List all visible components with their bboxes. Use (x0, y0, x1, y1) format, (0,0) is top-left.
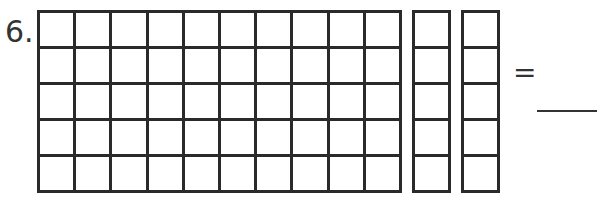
strip-1 (412, 10, 451, 193)
grid-cell (364, 156, 400, 192)
grid-cell (75, 48, 111, 84)
grid-cell (463, 120, 499, 156)
grid-cell (147, 84, 183, 120)
grid-cell (364, 120, 400, 156)
grid-cell (219, 48, 255, 84)
grid-cell (256, 120, 292, 156)
grid-cell (147, 48, 183, 84)
grid-cell (147, 120, 183, 156)
grid-cell (364, 12, 400, 48)
grid-cell (75, 120, 111, 156)
grid-cell (328, 120, 364, 156)
grid-cell (111, 48, 147, 84)
grid-cell (111, 156, 147, 192)
grid-cell (147, 156, 183, 192)
grid-cell (75, 156, 111, 192)
grid-cell (328, 156, 364, 192)
grid-cell (111, 120, 147, 156)
grid-cell (256, 12, 292, 48)
grid-cell (414, 156, 450, 192)
grid-cell (147, 12, 183, 48)
grid-cell (39, 156, 75, 192)
grid-cell (292, 84, 328, 120)
grid-cell (39, 120, 75, 156)
grid-cell (183, 120, 219, 156)
problem-number: 6. (5, 14, 34, 49)
grid-cell (292, 156, 328, 192)
grid-cell (414, 120, 450, 156)
grid-cell (256, 156, 292, 192)
grid-cell (219, 12, 255, 48)
grid-cell (111, 84, 147, 120)
grid-cell (111, 12, 147, 48)
grid-cell (414, 84, 450, 120)
grid-cell (463, 156, 499, 192)
grid-cell (414, 48, 450, 84)
grid-cell (219, 84, 255, 120)
grid-cell (364, 84, 400, 120)
grid-cell (219, 120, 255, 156)
grid-cell (364, 48, 400, 84)
grid-cell (328, 84, 364, 120)
grid-cell (39, 12, 75, 48)
grid-cell (414, 12, 450, 48)
grid-cell (292, 48, 328, 84)
strip-2 (461, 10, 500, 193)
answer-blank[interactable] (537, 110, 597, 112)
grid-cell (463, 12, 499, 48)
grid-cell (328, 12, 364, 48)
grid-cell (39, 84, 75, 120)
grid-cell (183, 84, 219, 120)
grid-cell (183, 156, 219, 192)
grid-cell (463, 48, 499, 84)
grid-cell (183, 12, 219, 48)
grid-cell (463, 84, 499, 120)
grid-cell (219, 156, 255, 192)
grid-cell (256, 48, 292, 84)
grid-cell (75, 84, 111, 120)
grid-cell (292, 120, 328, 156)
main-grid (37, 10, 402, 193)
grid-cell (75, 12, 111, 48)
grid-cell (256, 84, 292, 120)
grid-cell (39, 48, 75, 84)
grid-cell (328, 48, 364, 84)
grid-cell (183, 48, 219, 84)
equals-sign: = (513, 56, 536, 89)
grid-cell (292, 12, 328, 48)
